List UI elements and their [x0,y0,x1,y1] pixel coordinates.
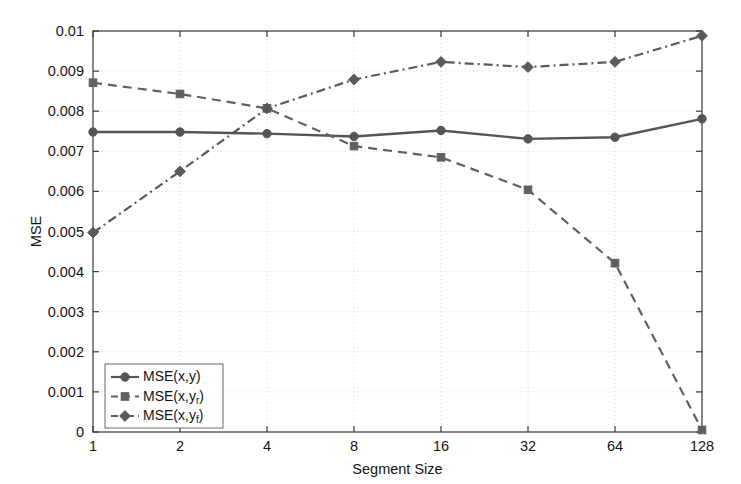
data-point-marker [437,126,445,134]
chart-figure: 00.0010.0020.0030.0040.0050.0060.0070.00… [0,0,741,484]
legend-label: MSE(x,yr) [143,387,204,405]
x-tick-label: 128 [690,438,714,454]
y-tick-label: 0.008 [48,103,84,119]
y-tick-label: 0.007 [48,143,84,159]
x-tick-label: 1 [89,438,97,454]
data-point-marker [524,186,532,194]
data-point-marker [89,79,97,87]
y-axis-title: MSE [28,215,44,247]
data-point-marker [121,393,129,401]
mse-line-chart: 00.0010.0020.0030.0040.0050.0060.0070.00… [0,0,741,484]
data-point-marker [350,142,358,150]
y-tick-label: 0.009 [48,63,84,79]
y-tick-label: 0 [76,424,84,440]
data-point-marker [698,426,706,434]
x-tick-label: 32 [520,438,536,454]
data-point-marker [89,128,97,136]
data-point-marker [350,132,358,140]
legend-label: MSE(x,y) [143,368,201,384]
data-point-marker [176,128,184,136]
y-tick-label: 0.01 [56,23,84,39]
data-point-marker [611,133,619,141]
data-point-marker [263,129,271,137]
y-tick-label: 0.006 [48,183,84,199]
chart-legend: MSE(x,y)MSE(x,yr)MSE(x,yf) [105,364,223,428]
data-point-marker [611,259,619,267]
y-tick-label: 0.004 [48,264,84,280]
data-point-marker [698,115,706,123]
data-point-marker [176,90,184,98]
data-point-marker [524,135,532,143]
y-tick-label: 0.005 [48,224,84,240]
y-tick-label: 0.002 [48,344,84,360]
data-point-marker [121,373,129,381]
data-point-marker [437,154,445,162]
y-tick-label: 0.001 [48,384,84,400]
legend-label: MSE(x,yf) [143,407,203,425]
x-tick-label: 64 [607,438,623,454]
x-tick-label: 8 [350,438,358,454]
x-tick-label: 16 [433,438,449,454]
x-tick-label: 2 [176,438,184,454]
y-tick-label: 0.003 [48,304,84,320]
x-tick-label: 4 [263,438,271,454]
x-axis-title: Segment Size [352,461,442,477]
